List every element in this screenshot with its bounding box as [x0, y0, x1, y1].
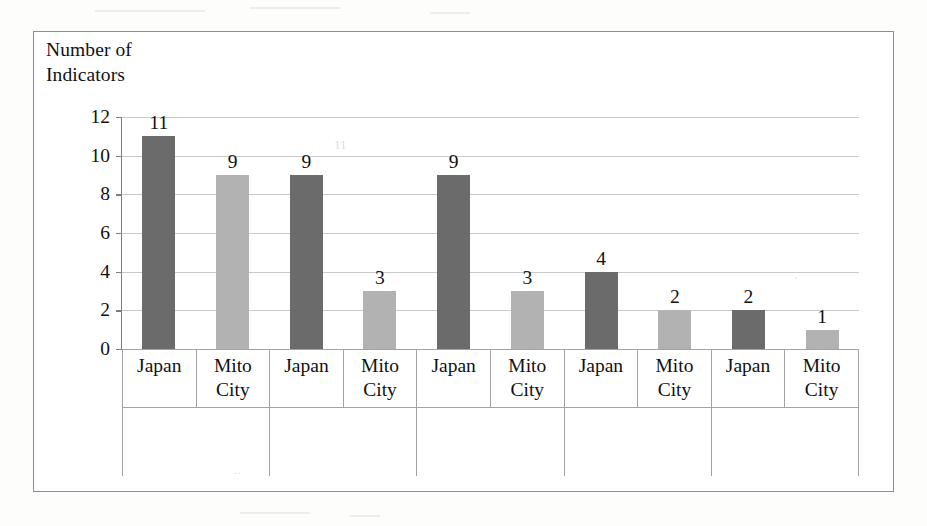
series-label-cell-japan: Japan: [269, 349, 343, 407]
category-label-cell: [122, 407, 269, 476]
y-axis-tick-label: 0: [80, 338, 110, 360]
bar-value-label: 9: [449, 152, 459, 172]
series-label-text: Japan: [284, 354, 328, 378]
bar-japan: 11: [142, 136, 175, 349]
bar-japan: 4: [585, 272, 618, 349]
y-axis-tick-label: 10: [80, 145, 110, 167]
series-label-cell-japan: Japan: [711, 349, 785, 407]
bar-value-label: 11: [149, 113, 168, 133]
bar-value-label: 3: [375, 268, 385, 288]
category-label-row: [122, 407, 859, 476]
series-label-text: Mito City: [803, 354, 841, 402]
gridline: [122, 117, 859, 118]
y-axis-tick-label: 12: [80, 106, 110, 128]
y-axis-tick-label: 6: [80, 222, 110, 244]
series-label-cell-japan: Japan: [564, 349, 638, 407]
scan-smudge: [250, 7, 340, 9]
bar-mito-city: 1: [806, 330, 839, 349]
series-label-cell-mito-city: Mito City: [490, 349, 564, 407]
series-label-text: Mito City: [655, 354, 693, 402]
bar-mito-city: 3: [363, 291, 396, 349]
y-axis-title: Number of Indicators: [46, 37, 132, 87]
series-label-text: Mito City: [508, 354, 546, 402]
y-axis-tick: [116, 233, 122, 234]
scan-smudge: [350, 515, 380, 517]
series-label-text: Japan: [579, 354, 623, 378]
bar-value-label: 2: [744, 287, 754, 307]
chart-figure-frame: Number of Indicators 11 . .. 02468101211…: [33, 31, 894, 492]
series-label-text: Japan: [137, 354, 181, 378]
series-label-text: Japan: [726, 354, 770, 378]
series-label-cell-japan: Japan: [122, 349, 196, 407]
y-axis-tick-label: 4: [80, 261, 110, 283]
y-axis-tick: [116, 117, 122, 118]
bar-value-label: 4: [596, 249, 606, 269]
series-label-cell-mito-city: Mito City: [196, 349, 270, 407]
scan-smudge: [430, 12, 470, 14]
bar-mito-city: 2: [658, 310, 691, 349]
y-axis-tick: [116, 156, 122, 157]
bar-mito-city: 3: [511, 291, 544, 349]
series-label-text: Mito City: [361, 354, 399, 402]
y-axis-tick: [116, 194, 122, 195]
y-axis-tick: [116, 310, 122, 311]
bar-value-label: 3: [522, 268, 532, 288]
y-axis-tick-label: 2: [80, 299, 110, 321]
bar-japan: 2: [732, 310, 765, 349]
y-axis-tick: [116, 272, 122, 273]
category-label-cell: [416, 407, 563, 476]
category-label-table: JapanMito CityJapanMito CityJapanMito Ci…: [122, 349, 859, 476]
series-label-cell-japan: Japan: [416, 349, 490, 407]
bar-mito-city: 9: [216, 175, 249, 349]
bar-japan: 9: [290, 175, 323, 349]
bar-value-label: 9: [301, 152, 311, 172]
series-label-cell-mito-city: Mito City: [343, 349, 417, 407]
bar-value-label: 1: [817, 307, 827, 327]
bar-value-label: 9: [228, 152, 238, 172]
series-label-text: Mito City: [214, 354, 252, 402]
scan-smudge: [240, 512, 310, 514]
series-label-cell-mito-city: Mito City: [637, 349, 711, 407]
series-label-text: Japan: [431, 354, 475, 378]
category-label-cell: [269, 407, 416, 476]
category-label-cell: [711, 407, 859, 476]
scan-smudge: [95, 10, 205, 12]
y-axis-tick-label: 8: [80, 183, 110, 205]
bar-japan: 9: [437, 175, 470, 349]
plot-area: 02468101211993934221: [122, 117, 859, 349]
bar-value-label: 2: [670, 287, 680, 307]
series-label-row: JapanMito CityJapanMito CityJapanMito Ci…: [122, 349, 859, 407]
series-label-cell-mito-city: Mito City: [784, 349, 859, 407]
category-label-cell: [564, 407, 711, 476]
